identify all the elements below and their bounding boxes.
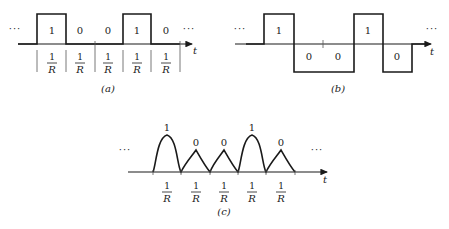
polar-waveform <box>246 14 430 72</box>
interval-fraction: 1 R <box>132 52 142 75</box>
ellipsis-left: ··· <box>234 23 247 34</box>
bit-label: 0 <box>163 25 169 36</box>
bit-label: 0 <box>105 25 111 36</box>
svg-text:R: R <box>276 193 285 204</box>
unipolar-waveform <box>18 14 180 44</box>
ellipsis-right: ··· <box>311 144 324 155</box>
bit-label: 0 <box>278 137 284 148</box>
time-label: t <box>430 46 435 57</box>
interval-fraction: 1 R <box>103 52 113 75</box>
bit-label: 1 <box>276 25 282 36</box>
interval-fraction: 1 R <box>191 181 201 204</box>
svg-text:R: R <box>103 64 112 75</box>
svg-text:1: 1 <box>163 52 169 62</box>
interval-fraction: 1 R <box>47 52 57 75</box>
svg-text:1: 1 <box>105 52 111 62</box>
bit-label: 1 <box>249 122 255 133</box>
svg-text:1: 1 <box>278 181 284 191</box>
svg-text:1: 1 <box>164 181 170 191</box>
time-label: t <box>323 174 328 185</box>
svg-text:R: R <box>219 193 228 204</box>
svg-text:1: 1 <box>249 181 255 191</box>
svg-text:R: R <box>161 64 170 75</box>
bit-label: 0 <box>77 25 83 36</box>
ellipsis-left: ··· <box>9 23 22 34</box>
caption-c: (c) <box>217 206 231 217</box>
bit-label: 0 <box>221 137 227 148</box>
svg-text:R: R <box>75 64 84 75</box>
svg-text:1: 1 <box>49 52 55 62</box>
interval-fraction: 1 R <box>162 181 172 204</box>
svg-text:1: 1 <box>221 181 227 191</box>
bit-label: 0 <box>335 51 341 62</box>
interval-fraction: 1 R <box>75 52 85 75</box>
interval-fraction: 1 R <box>247 181 257 204</box>
bit-label: 0 <box>306 51 312 62</box>
caption-b: (b) <box>331 83 345 94</box>
interval-fraction: 1 R <box>276 181 286 204</box>
bit-label: 0 <box>193 137 199 148</box>
svg-text:R: R <box>47 64 56 75</box>
ellipsis-right: ··· <box>183 23 196 34</box>
bit-label: 1 <box>365 25 371 36</box>
svg-text:1: 1 <box>134 52 140 62</box>
svg-text:R: R <box>247 193 256 204</box>
ellipsis-left: ··· <box>119 144 132 155</box>
interval-fraction: 1 R <box>161 52 171 75</box>
ellipsis-right: ··· <box>426 23 439 34</box>
svg-text:1: 1 <box>77 52 83 62</box>
panel-a: 1 0 0 1 0 1 R 1 R 1 R 1 R 1 R <box>9 14 198 94</box>
bit-label: 1 <box>134 25 140 36</box>
svg-text:1: 1 <box>193 181 199 191</box>
panel-c: 1 0 0 1 0 1 R 1 R 1 R 1 R 1 R ··· <box>119 122 328 217</box>
line-code-figure: 1 0 0 1 0 1 R 1 R 1 R 1 R 1 R <box>0 0 449 229</box>
svg-text:R: R <box>191 193 200 204</box>
bit-label: 0 <box>394 51 400 62</box>
svg-text:R: R <box>132 64 141 75</box>
svg-text:R: R <box>162 193 171 204</box>
caption-a: (a) <box>101 83 115 94</box>
panel-b: 1 0 0 1 0 ··· ··· t (b) <box>234 14 439 94</box>
bit-label: 1 <box>49 25 55 36</box>
interval-fraction: 1 R <box>219 181 229 204</box>
bit-label: 1 <box>164 122 170 133</box>
time-label: t <box>193 45 198 56</box>
